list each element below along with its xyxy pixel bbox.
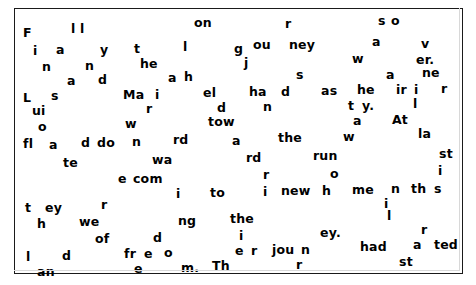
text-fragment: ey.	[320, 227, 341, 240]
text-fragment: s	[378, 15, 386, 28]
text-fragment: d	[153, 232, 162, 245]
text-fragment: At	[392, 114, 408, 127]
text-fragment: e	[118, 173, 127, 186]
text-fragment: had	[360, 241, 387, 254]
text-fragment: st	[439, 148, 453, 161]
text-fragment: d	[281, 86, 290, 99]
text-fragment: i	[263, 186, 268, 199]
text-fragment: l	[413, 98, 418, 111]
text-fragment: me	[352, 184, 374, 197]
text-fragment: ng	[178, 215, 196, 228]
text-fragment: t	[25, 202, 31, 215]
text-fragment: n	[85, 60, 94, 73]
text-fragment: s	[434, 183, 442, 196]
text-fragment: do	[97, 137, 115, 150]
text-fragment: st	[399, 256, 413, 269]
text-fragment: ne	[422, 67, 440, 80]
text-fragment: a	[168, 72, 177, 85]
text-fragment: la	[418, 128, 431, 141]
text-fragment: fr	[124, 248, 136, 261]
text-fragment: s	[296, 69, 304, 82]
text-fragment: r	[251, 245, 257, 258]
text-fragment: of	[95, 233, 109, 246]
text-fragment: a	[67, 75, 76, 88]
text-fragment: y.	[362, 100, 374, 113]
text-fragment: d	[62, 250, 71, 263]
text-fragment: ou	[253, 39, 271, 52]
text-fragment: w	[343, 131, 355, 144]
text-fragment: d	[81, 137, 90, 150]
text-fragment: the	[230, 213, 254, 226]
text-fragment: n	[42, 61, 51, 74]
text-fragment: d	[217, 102, 226, 115]
text-fragment: an	[37, 266, 55, 279]
text-fragment: as	[321, 85, 337, 98]
text-fragment: g	[234, 43, 243, 56]
text-fragment: r	[421, 224, 427, 237]
text-fragment: run	[313, 150, 338, 163]
text-fragment: l	[183, 41, 188, 54]
text-fragment: tow	[208, 116, 235, 129]
text-fragment: i	[33, 45, 38, 58]
text-fragment: n	[263, 101, 272, 114]
text-fragment: com	[133, 173, 163, 186]
text-fragment: n	[301, 244, 310, 257]
text-fragment: h	[184, 71, 193, 84]
text-fragment: m.	[181, 262, 199, 275]
text-fragment: o	[164, 247, 173, 260]
text-fragment: e	[134, 263, 143, 276]
text-fragment: e	[235, 245, 244, 258]
text-fragment: i	[176, 188, 181, 201]
text-fragment: F	[23, 27, 32, 40]
text-fragment: o	[330, 168, 339, 181]
text-fragment: h	[37, 218, 46, 231]
scattered-text-panel: Fl lonrsoiaytlgouneyavnnhejwer.adahsaneL…	[14, 8, 463, 274]
text-fragment: i	[155, 89, 160, 102]
text-fragment: t	[134, 43, 140, 56]
text-fragment: r	[101, 199, 107, 212]
text-fragment: new	[281, 185, 311, 198]
text-fragment: y	[100, 44, 108, 57]
text-fragment: ir	[396, 84, 407, 97]
text-fragment: j	[244, 57, 249, 70]
text-fragment: i	[438, 165, 443, 178]
text-fragment: l	[387, 210, 392, 223]
text-fragment: he	[140, 58, 158, 71]
text-fragment: ney	[289, 39, 315, 52]
text-fragment: a	[386, 69, 395, 82]
text-fragment: Ma	[123, 89, 144, 102]
text-fragment: r	[441, 83, 447, 96]
text-fragment: e	[144, 248, 153, 261]
text-fragment: l	[26, 251, 31, 264]
text-fragment: r	[263, 169, 269, 182]
text-fragment: jou	[272, 244, 294, 257]
text-fragment: r	[146, 103, 152, 116]
text-fragment: a	[49, 139, 58, 152]
text-fragment: i	[239, 230, 244, 243]
text-fragment: a	[372, 36, 381, 49]
text-fragment: ui	[32, 105, 46, 118]
text-fragment: w	[125, 118, 137, 131]
text-fragment: L	[23, 92, 31, 105]
text-fragment: l l	[71, 23, 85, 36]
text-fragment: to	[210, 187, 225, 200]
text-fragment: we	[79, 216, 99, 229]
text-fragment: ey	[45, 202, 62, 215]
text-fragment: a	[413, 239, 422, 252]
text-fragment: fl	[23, 138, 33, 151]
text-fragment: i	[414, 84, 419, 97]
text-fragment: t	[348, 100, 354, 113]
text-fragment: r	[285, 18, 291, 31]
text-fragment: h	[322, 185, 331, 198]
text-fragment: a	[353, 115, 362, 128]
text-fragment: v	[421, 38, 429, 51]
text-fragment: s	[51, 90, 59, 103]
text-fragment: rd	[246, 152, 262, 165]
text-fragment: el	[203, 87, 216, 100]
screenshot-canvas: Fl lonrsoiaytlgouneyavnnhejwer.adahsaneL…	[0, 0, 476, 285]
text-fragment: n	[391, 183, 400, 196]
text-fragment: on	[194, 17, 212, 30]
text-fragment: ha	[249, 86, 267, 99]
text-fragment: th	[411, 183, 426, 196]
text-fragment: the	[278, 132, 302, 145]
